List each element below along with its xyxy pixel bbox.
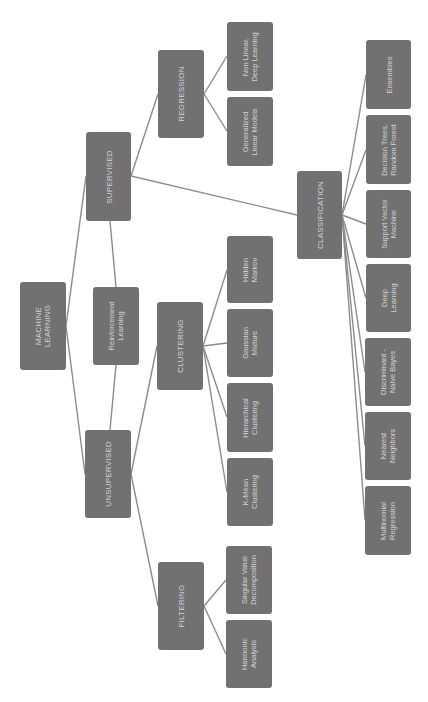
- connector-line: [204, 606, 226, 654]
- node-label: MACHINE LEARNING: [34, 305, 52, 348]
- node-disc: Discriminant - Naive Bayes: [365, 338, 411, 406]
- node-gmm: Gaussian Mixture: [227, 309, 273, 377]
- connector-line: [110, 365, 116, 430]
- connector-line: [131, 474, 158, 606]
- connector-line: [131, 94, 158, 176]
- node-hmm: Hidden Markov: [227, 236, 273, 303]
- node-dl: Deep Learning: [366, 264, 411, 332]
- node-kmean: K-Mean Clustering: [227, 458, 273, 526]
- node-glm: Generalized Linear Models: [227, 97, 273, 166]
- node-ens: Ensembles: [366, 40, 411, 109]
- node-clus: CLUSTERING: [157, 302, 203, 390]
- node-label: SUPERVISED: [104, 150, 113, 203]
- node-nn: Nearest Neighbors: [365, 412, 411, 480]
- node-label: Support Vector Machine: [380, 199, 398, 249]
- node-svm: Support Vector Machine: [366, 190, 411, 258]
- connector-line: [203, 343, 227, 346]
- connector-line: [204, 56, 227, 94]
- connector-line: [203, 270, 227, 346]
- node-label: Deep Learning: [380, 283, 398, 312]
- node-nonlin: Non Linear, Deep Learning: [227, 22, 273, 91]
- node-label: Discriminant - Naive Bayes: [379, 349, 397, 395]
- node-label: Nearest Neighbors: [379, 429, 397, 463]
- connector-line: [110, 221, 116, 287]
- node-label: Non Linear, Deep Learning: [241, 32, 259, 81]
- node-label: REGRESSION: [177, 66, 186, 121]
- node-harm: Harmonic Analysis: [226, 620, 272, 688]
- node-hier: Hierarchical Clustering: [227, 383, 273, 452]
- node-label: Reinforcement Learning: [107, 302, 125, 351]
- node-ml: MACHINE LEARNING: [20, 282, 66, 370]
- node-sup: SUPERVISED: [86, 132, 131, 221]
- node-label: Ensembles: [384, 56, 393, 93]
- node-label: Gaussian Mixture: [241, 327, 259, 359]
- connector-line: [342, 150, 366, 215]
- node-rl: Reinforcement Learning: [93, 287, 139, 365]
- node-svd: Singular Value Decomposition: [226, 546, 272, 614]
- connector-line: [66, 326, 85, 474]
- node-label: UNSUPERVISED: [104, 441, 113, 506]
- node-unsup: UNSUPERVISED: [85, 430, 131, 518]
- node-label: FILTERING: [177, 585, 186, 628]
- node-label: Generalized Linear Models: [241, 108, 259, 155]
- node-dt: Decision Trees, Random Forest: [366, 115, 411, 184]
- node-label: CLUSTERING: [176, 319, 185, 373]
- node-multi: Multinomial Regression: [365, 486, 411, 555]
- node-label: Hierarchical Clustering: [241, 398, 259, 438]
- connector-line: [342, 215, 365, 446]
- node-label: Hidden Markov: [241, 257, 259, 282]
- node-cls: CLASSIFICATION: [297, 171, 342, 259]
- node-reg: REGRESSION: [158, 50, 204, 138]
- connector-line: [203, 346, 227, 492]
- node-label: K-Mean Clustering: [241, 475, 259, 509]
- node-filt: FILTERING: [158, 562, 204, 650]
- node-label: CLASSIFICATION: [315, 181, 324, 249]
- ml-taxonomy-diagram: MACHINE LEARNINGSUPERVISEDReinforcement …: [0, 0, 428, 702]
- connector-line: [342, 215, 366, 224]
- node-label: Singular Value Decomposition: [240, 555, 258, 605]
- connector-line: [342, 215, 365, 520]
- connector-line: [342, 215, 365, 372]
- node-label: Decision Trees, Random Forest: [380, 124, 398, 176]
- node-label: Multinomial Regression: [379, 502, 397, 540]
- connector-line: [131, 176, 297, 215]
- connector-line: [131, 346, 157, 474]
- connector-line: [204, 580, 226, 606]
- node-label: Harmonic Analysis: [240, 638, 258, 670]
- connector-line: [66, 176, 86, 326]
- connector-line: [204, 94, 227, 131]
- connector-line: [203, 346, 227, 417]
- connector-line: [342, 75, 366, 215]
